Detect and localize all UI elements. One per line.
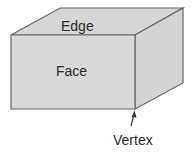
box-diagram-svg: Edge Face Vertex	[0, 0, 196, 157]
face-label: Face	[56, 63, 87, 79]
vertex-arrow-icon	[131, 111, 137, 127]
edge-label: Edge	[61, 18, 94, 34]
vertex-label: Vertex	[113, 132, 153, 148]
box-diagram: Edge Face Vertex	[0, 0, 196, 157]
